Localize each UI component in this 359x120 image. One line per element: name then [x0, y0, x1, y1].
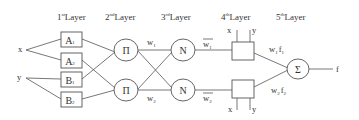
layer3-node-normalize-1: N	[171, 39, 195, 61]
output-f-label: f	[336, 64, 339, 74]
layer4-bottom-y-label: y	[252, 104, 257, 114]
layer4-top-x-label: x	[227, 25, 232, 35]
layer1-node-a2: A2	[61, 53, 82, 68]
w1-bar-label: w1	[203, 39, 213, 50]
layer-5-heading: 5thLayer	[276, 12, 305, 22]
layer-3-heading: 3rdLayer	[161, 12, 191, 22]
w1f1-label: w1f1	[269, 44, 284, 55]
w2f2-label: w2f2	[271, 85, 286, 96]
input-edges	[26, 39, 61, 99]
input-y-label: y	[17, 72, 22, 82]
layer-2-heading: 2ndLayer	[105, 12, 135, 22]
w1-label: w1	[147, 37, 156, 48]
svg-text:Π: Π	[122, 85, 129, 96]
layer1-node-b2: B2	[61, 92, 82, 107]
layer1-node-a1: A1	[61, 32, 82, 47]
svg-text:Σ: Σ	[295, 64, 301, 75]
layer2-to-layer3-edges	[138, 50, 172, 90]
layer4-to-layer5-edges	[254, 53, 288, 87]
layer-1-heading: 1stLayer	[57, 12, 86, 22]
layer4-node-2	[232, 80, 254, 98]
svg-text:w1: w1	[203, 39, 212, 50]
layer3-node-normalize-2: N	[171, 79, 195, 101]
layer4-bottom-x-label: x	[228, 104, 233, 114]
svg-text:w2: w2	[203, 93, 212, 104]
w2-bar-label: w2	[203, 93, 213, 104]
layer2-node-product-2: Π	[114, 79, 138, 101]
layer1-to-layer2-edges	[82, 39, 115, 99]
svg-text:N: N	[179, 45, 186, 56]
layer1-node-b1: B1	[61, 72, 82, 87]
layer4-node-1	[232, 42, 254, 60]
layer-headings: 1stLayer 2ndLayer 3rdLayer 4thLayer 5thL…	[57, 12, 305, 22]
svg-text:Π: Π	[122, 45, 129, 56]
layer5-node-sum: Σ	[287, 59, 309, 79]
layer3-to-layer4-edges	[195, 50, 232, 90]
layer4-top-y-label: y	[252, 25, 257, 35]
layer2-node-product-1: Π	[114, 39, 138, 61]
svg-text:N: N	[179, 85, 186, 96]
input-x-label: x	[18, 44, 23, 54]
w2-label: w2	[147, 93, 156, 104]
anfis-diagram: 1stLayer 2ndLayer 3rdLayer 4thLayer 5thL…	[0, 0, 359, 120]
layer-4-heading: 4thLayer	[221, 12, 250, 22]
